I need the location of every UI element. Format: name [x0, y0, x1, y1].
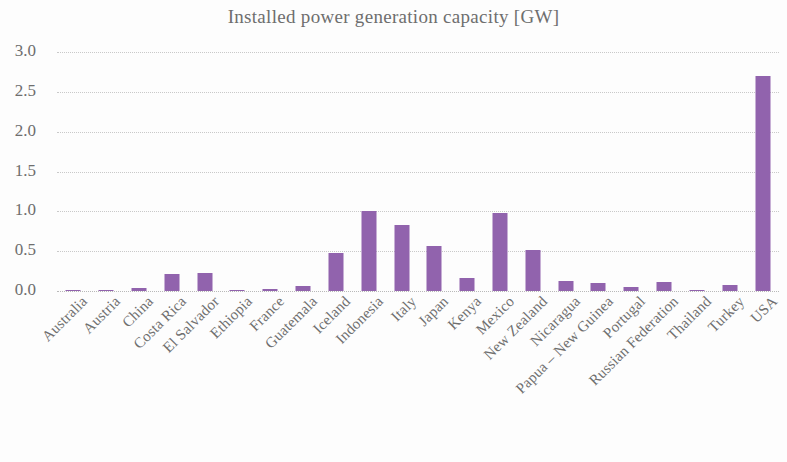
bar-slot — [254, 52, 287, 291]
x-tick-label: Australia — [39, 293, 91, 345]
bar[interactable] — [296, 286, 311, 291]
bar-slot — [418, 52, 451, 291]
chart-figure: Installed power generation capacity [GW]… — [0, 0, 787, 462]
bar-slot — [615, 52, 648, 291]
bar-slot — [549, 52, 582, 291]
bar-slot — [451, 52, 484, 291]
bar-slot — [123, 52, 156, 291]
bar[interactable] — [361, 211, 376, 291]
y-tick-label: 2.0 — [0, 121, 36, 141]
x-tick-label: Turkey — [705, 293, 748, 336]
y-tick-label: 3.0 — [0, 41, 36, 61]
bar[interactable] — [263, 289, 278, 291]
bar[interactable] — [460, 278, 475, 291]
bar-slot — [713, 52, 746, 291]
bar-slot — [188, 52, 221, 291]
bar-slot — [352, 52, 385, 291]
bar[interactable] — [164, 274, 179, 291]
bar-slot — [221, 52, 254, 291]
bar[interactable] — [722, 285, 737, 291]
bar[interactable] — [591, 283, 606, 291]
bar-slot — [320, 52, 353, 291]
bar-slot — [516, 52, 549, 291]
x-axis-labels: AustraliaAustriaChinaCosta RicaEl Salvad… — [57, 293, 779, 458]
x-tick-label: USA — [747, 293, 781, 327]
bar[interactable] — [657, 282, 672, 291]
x-tick-label: Italy — [387, 293, 419, 325]
bar-slot — [648, 52, 681, 291]
bar-slot — [681, 52, 714, 291]
bar-slot — [582, 52, 615, 291]
y-tick-label: 1.0 — [0, 200, 36, 220]
bar[interactable] — [328, 253, 343, 291]
y-tick-label: 0.0 — [0, 280, 36, 300]
bars-group — [57, 52, 779, 291]
bar[interactable] — [493, 213, 508, 291]
bar-slot — [385, 52, 418, 291]
bar-slot — [484, 52, 517, 291]
y-tick-label: 0.5 — [0, 240, 36, 260]
bar-slot — [746, 52, 779, 291]
bar[interactable] — [558, 281, 573, 291]
chart-title: Installed power generation capacity [GW] — [0, 6, 787, 28]
y-tick-label: 2.5 — [0, 81, 36, 101]
bar-slot — [287, 52, 320, 291]
bar[interactable] — [525, 250, 540, 291]
bar[interactable] — [624, 287, 639, 291]
bar[interactable] — [132, 288, 147, 291]
bar[interactable] — [689, 290, 704, 292]
bar[interactable] — [66, 290, 81, 292]
bar[interactable] — [394, 225, 409, 291]
bar[interactable] — [99, 290, 114, 292]
y-tick-label: 1.5 — [0, 161, 36, 181]
bar[interactable] — [197, 273, 212, 291]
bar-slot — [57, 52, 90, 291]
gridline — [57, 291, 779, 292]
bar[interactable] — [755, 76, 770, 291]
bar-slot — [155, 52, 188, 291]
plot-area: 3.02.52.01.51.00.50.0 — [57, 52, 779, 291]
bar[interactable] — [427, 246, 442, 291]
bar[interactable] — [230, 290, 245, 292]
bar-slot — [90, 52, 123, 291]
